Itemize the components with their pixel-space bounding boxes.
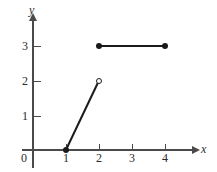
x-tick-3 bbox=[132, 144, 134, 151]
closed-endpoint-2-3 bbox=[96, 43, 102, 49]
closed-endpoint-1-0 bbox=[63, 147, 69, 153]
x-axis-label: x bbox=[201, 143, 206, 155]
x-tick-label-3: 3 bbox=[125, 152, 139, 164]
piecewise-function-graph: y x 3 2 1 1 2 3 4 0 bbox=[0, 0, 217, 172]
y-axis-line bbox=[32, 20, 34, 168]
open-endpoint-2-2 bbox=[96, 78, 102, 84]
y-tick-3 bbox=[33, 46, 41, 48]
x-tick-4 bbox=[165, 144, 167, 151]
x-tick-label-1: 1 bbox=[59, 152, 73, 164]
origin-label: 0 bbox=[17, 152, 31, 164]
x-tick-label-2: 2 bbox=[92, 152, 106, 164]
x-tick-2 bbox=[99, 144, 101, 151]
x-axis-line bbox=[22, 149, 196, 151]
x-tick-label-4: 4 bbox=[158, 152, 172, 164]
constant-line-segment bbox=[99, 45, 165, 47]
y-tick-label-3: 3 bbox=[14, 40, 28, 52]
y-axis-label: y bbox=[29, 4, 34, 16]
y-tick-1 bbox=[33, 116, 41, 118]
y-tick-2 bbox=[33, 81, 41, 83]
y-tick-label-2: 2 bbox=[14, 75, 28, 87]
x-axis-arrowhead-icon bbox=[192, 146, 200, 154]
rising-line-segment bbox=[65, 80, 100, 150]
closed-endpoint-4-3 bbox=[162, 43, 168, 49]
y-tick-label-1: 1 bbox=[14, 110, 28, 122]
